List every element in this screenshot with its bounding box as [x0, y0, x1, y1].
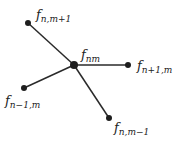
edge-center-up — [28, 23, 74, 65]
node-up — [25, 20, 31, 26]
label-right: fn+1,m — [136, 58, 172, 75]
node-left — [21, 85, 27, 91]
labels: fnm fn,m+1 fn+1,m fn−1,m fn,m−1 — [4, 7, 172, 137]
node-down — [106, 115, 112, 121]
stencil-diagram: fnm fn,m+1 fn+1,m fn−1,m fn,m−1 — [0, 0, 180, 144]
label-up: fn,m+1 — [35, 7, 71, 24]
edge-center-down — [74, 65, 109, 118]
node-right — [125, 62, 131, 68]
node-center — [70, 61, 78, 69]
label-center: fnm — [80, 47, 100, 64]
label-left: fn−1,m — [4, 93, 40, 110]
label-down: fn,m−1 — [113, 120, 149, 137]
edge-center-left — [24, 65, 74, 88]
